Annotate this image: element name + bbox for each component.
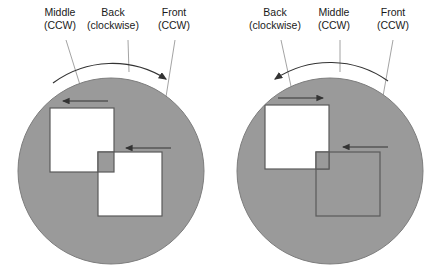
label-middle-line1: Middle: [319, 6, 350, 18]
label-middle-line2: (CCW): [44, 19, 76, 31]
label-back-line1: Back: [101, 6, 125, 18]
label-front-line2: (CCW): [377, 19, 409, 31]
label-back-line1: Back: [263, 6, 287, 18]
diagram-canvas: Middle (CCW) Back (clockwise) Front (CCW…: [0, 0, 439, 277]
left-labels: Middle (CCW) Back (clockwise) Front (CCW…: [44, 6, 190, 31]
label-front-line2: (CCW): [158, 19, 190, 31]
right-labels: Back (clockwise) Middle (CCW) Front (CCW…: [249, 6, 409, 31]
rotation-diagram-svg: Middle (CCW) Back (clockwise) Front (CCW…: [0, 0, 439, 277]
overlap-patch-right: [316, 152, 329, 169]
overlap-patch-left: [98, 152, 114, 172]
label-front-line1: Front: [381, 6, 406, 18]
label-front-line1: Front: [162, 6, 187, 18]
label-middle-line1: Middle: [45, 6, 76, 18]
label-middle-line2: (CCW): [318, 19, 350, 31]
label-back-line2: (clockwise): [249, 19, 301, 31]
label-back-line2: (clockwise): [87, 19, 139, 31]
